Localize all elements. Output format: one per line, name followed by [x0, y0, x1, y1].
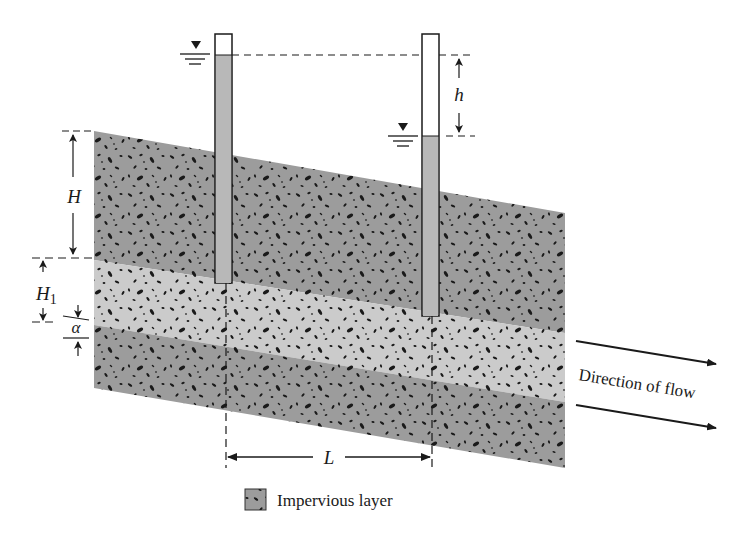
label-h: h	[454, 84, 464, 105]
water-level-symbol-upstream	[180, 41, 210, 64]
label-H: H	[66, 186, 82, 207]
soil-block	[94, 131, 565, 468]
label-H1: H1	[35, 283, 57, 307]
label-L: L	[323, 447, 335, 468]
water-level-symbol-downstream	[388, 123, 418, 146]
thickness-H1-dimension: H1	[32, 261, 57, 322]
flow-direction-label: Direction of flow	[577, 365, 697, 402]
angle-alpha-dimension: α	[63, 305, 89, 356]
thickness-H-dimension: H	[32, 131, 92, 258]
head-difference-dimension: h	[454, 59, 464, 132]
legend-label: Impervious layer	[277, 491, 393, 510]
legend: Impervious layer	[245, 489, 393, 510]
label-alpha: α	[72, 318, 82, 337]
soil-specks	[94, 131, 565, 468]
flow-direction: Direction of flow	[576, 341, 716, 428]
piezometer-upstream	[215, 34, 232, 283]
aquifer-diagram: h H H1 α L Direction of flow	[0, 0, 744, 542]
piezometer-downstream	[422, 34, 439, 316]
